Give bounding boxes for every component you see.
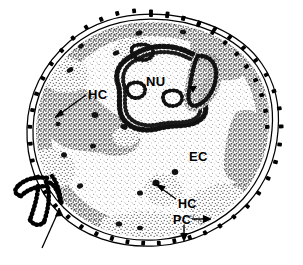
label-nucleolus: NU: [146, 74, 165, 89]
label-euchromatin: EC: [189, 149, 208, 164]
label-heterochromatin-upper: HC: [88, 87, 108, 102]
label-peripheral-chromatin: PC: [173, 213, 191, 227]
nucleus-diagram: NU HC EC HC PC: [0, 0, 303, 265]
label-heterochromatin-lower: HC: [178, 197, 197, 211]
